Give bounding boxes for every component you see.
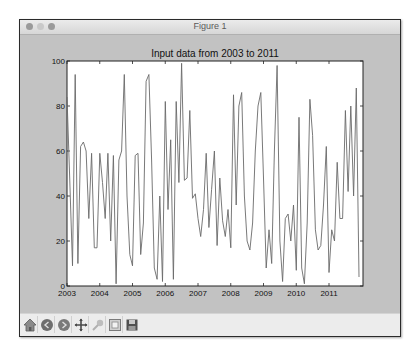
x-tick-label: 2005 [124,289,142,298]
x-tick-label: 2010 [287,289,305,298]
y-tick-label: 40 [56,192,65,201]
x-tick-label: 2011 [320,289,338,298]
x-tick-label: 2008 [222,289,240,298]
line-chart: Input data from 2003 to 2011 02040608010… [0,0,417,354]
y-tick-label: 80 [56,102,65,111]
chart-title: Input data from 2003 to 2011 [151,48,279,59]
x-tick-label: 2004 [91,289,109,298]
x-tick-label: 2003 [58,289,76,298]
x-tick-label: 2009 [255,289,273,298]
y-tick-label: 20 [56,237,65,246]
x-tick-label: 2007 [189,289,207,298]
y-tick-label: 100 [52,57,66,66]
x-tick-label: 2006 [156,289,174,298]
y-tick-label: 60 [56,147,65,156]
